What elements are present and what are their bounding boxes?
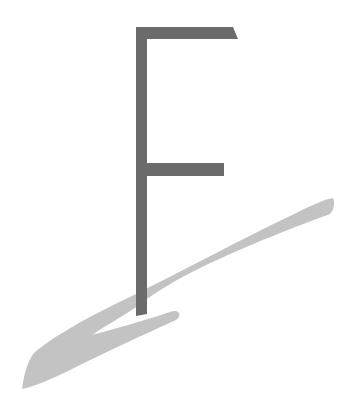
f-logo-icon — [0, 0, 343, 409]
swoosh-shape — [22, 198, 334, 389]
